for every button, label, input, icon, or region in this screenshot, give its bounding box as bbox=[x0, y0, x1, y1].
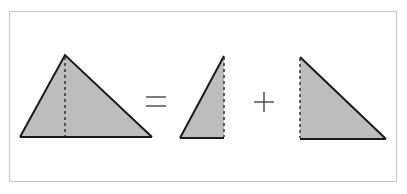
triangle-decomposition-diagram bbox=[0, 0, 407, 194]
